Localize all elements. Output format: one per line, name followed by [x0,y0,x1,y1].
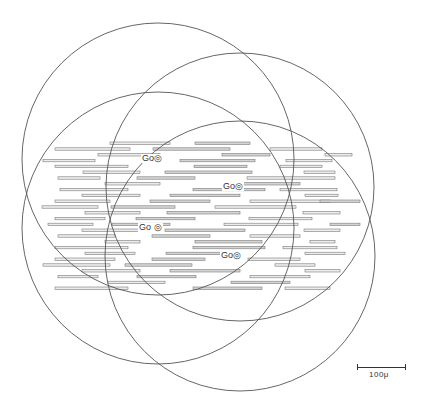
parallel-fiber [330,223,360,225]
parallel-fiber [286,159,332,161]
parallel-fiber [152,235,210,237]
parallel-fiber [165,171,252,173]
parallel-fiber [108,281,165,283]
parallel-fiber [137,177,195,179]
parallel-fibers [42,142,360,289]
parallel-fiber [136,217,195,219]
parallel-fiber [320,200,360,202]
parallel-fiber [111,206,175,208]
parallel-fiber [55,258,115,260]
parallel-fiber [48,223,93,225]
parallel-fiber [43,159,95,161]
golgi-label-3: Go ◎ [138,223,163,232]
parallel-fiber [105,183,160,185]
scale-bar-line [357,367,405,368]
parallel-fiber [250,235,300,237]
parallel-fiber [60,188,128,190]
parallel-fiber [153,148,230,150]
parallel-fiber [222,154,270,156]
parallel-fiber [180,159,255,161]
parallel-fiber [82,270,140,272]
parallel-fiber [152,258,205,260]
parallel-fiber [165,229,245,231]
parallel-fiber [280,165,322,167]
parallel-fiber [105,241,140,243]
parallel-fiber [55,148,130,150]
parallel-fiber [137,275,196,277]
parallel-fiber [304,229,340,231]
parallel-fiber [310,241,335,243]
parallel-fiber [305,194,338,196]
parallel-fiber [82,194,140,196]
parallel-fiber [170,194,240,196]
parallel-fiber [125,264,192,266]
parallel-fiber [170,270,240,272]
parallel-fiber [283,246,337,248]
parallel-fiber [250,200,330,202]
parallel-fiber [270,148,322,150]
parallel-fiber [303,212,340,214]
parallel-fiber [194,165,247,167]
parallel-fiber [305,252,345,254]
parallel-fiber [248,258,300,260]
parallel-fiber [215,206,296,208]
parallel-fiber [231,281,290,283]
parallel-fiber [305,270,340,272]
parallel-fiber [55,217,105,219]
parallel-fiber [285,287,330,289]
parallel-fiber [55,165,128,167]
golgi-label-4: Go◎ [220,251,242,260]
parallel-fiber [82,229,140,231]
parallel-fiber [167,212,240,214]
parallel-fiber [250,275,310,277]
parallel-fiber [195,241,262,243]
parallel-fiber [304,171,335,173]
parallel-fiber [42,206,98,208]
parallel-fiber [85,252,135,254]
parallel-fiber [55,200,110,202]
golgi-label-2: Go◎ [222,182,244,191]
parallel-fiber [275,264,315,266]
parallel-fiber [195,142,250,144]
parallel-fiber [110,142,170,144]
parallel-fiber [43,264,110,266]
parallel-fiber [247,177,335,179]
parallel-fiber [193,246,265,248]
parallel-fiber [83,171,140,173]
scale-bar-right-cap [405,364,406,370]
parallel-fiber [224,223,298,225]
diagram-canvas [0,0,428,409]
scale-bar: 100μ [357,362,407,382]
parallel-fiber [150,200,210,202]
scale-bar-label: 100μ [369,370,389,379]
parallel-fiber [55,246,128,248]
golgi-label-1: Go◎ [141,154,163,163]
parallel-fiber [58,177,100,179]
